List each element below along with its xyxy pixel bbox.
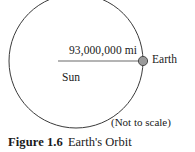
orbit-circle: [9, 0, 143, 128]
orbit-diagram-svg: [0, 0, 195, 152]
earth-label: Earth: [152, 54, 177, 66]
figure-caption-number: Figure 1.6: [8, 135, 63, 149]
sun-label: Sun: [62, 72, 80, 84]
not-to-scale-note: (Not to scale): [111, 117, 171, 128]
earth-dot-icon: [138, 56, 147, 65]
figure-earths-orbit: 93,000,000 mi Earth Sun (Not to scale) F…: [0, 0, 195, 152]
figure-caption-title: Earth's Orbit: [68, 135, 132, 149]
orbital-distance-label: 93,000,000 mi: [69, 45, 137, 57]
figure-caption: Figure 1.6Earth's Orbit: [8, 136, 132, 150]
